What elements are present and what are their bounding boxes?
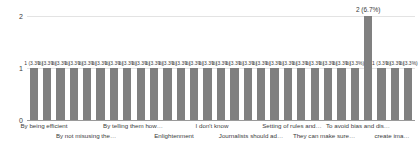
bar xyxy=(123,68,131,120)
bar xyxy=(324,68,332,120)
bar xyxy=(311,68,319,120)
bar-value-label: 1 (3.3%) xyxy=(399,61,418,66)
x-axis-tick-label: Journalists should ad… xyxy=(219,132,283,139)
bar xyxy=(43,68,51,120)
bar xyxy=(56,68,64,120)
bar-chart: 012 1 (3.3%)1 (3.3%)1 (3.3%)1 (3.3%)1 (3… xyxy=(0,0,418,152)
bar xyxy=(83,68,91,120)
x-axis-tick-labels: By being efficientBy not misusing the…By… xyxy=(0,121,418,152)
bar xyxy=(244,68,252,120)
bar xyxy=(337,68,345,120)
bar xyxy=(177,68,185,120)
bar xyxy=(391,68,399,120)
bar xyxy=(364,16,372,120)
bar xyxy=(404,68,412,120)
bar xyxy=(351,68,359,120)
bar-value-label: 1 (3.3%) xyxy=(345,61,364,66)
x-axis-tick-label: Setting of rules and… xyxy=(262,122,322,129)
bar xyxy=(217,68,225,120)
x-axis-tick-label: They can make sure… xyxy=(293,132,355,139)
bar xyxy=(30,68,38,120)
y-axis-tick-label: 2 xyxy=(3,13,23,20)
bar xyxy=(257,68,265,120)
x-axis-tick-label: create ima… xyxy=(374,132,409,139)
x-axis-tick-label: By telling them how… xyxy=(103,122,163,129)
x-axis-tick-label: Enlightenment xyxy=(154,132,194,139)
bar xyxy=(203,68,211,120)
bar xyxy=(190,68,198,120)
bar xyxy=(110,68,118,120)
bar xyxy=(70,68,78,120)
bar xyxy=(163,68,171,120)
x-axis-tick-label: I don't know xyxy=(196,122,229,129)
x-axis-tick-label: To avoid bias and dis… xyxy=(326,122,390,129)
bar xyxy=(284,68,292,120)
bar xyxy=(96,68,104,120)
bar xyxy=(150,68,158,120)
bar xyxy=(297,68,305,120)
bar xyxy=(270,68,278,120)
plot-area: 1 (3.3%)1 (3.3%)1 (3.3%)1 (3.3%)1 (3.3%)… xyxy=(27,16,415,120)
bar xyxy=(137,68,145,120)
gridline xyxy=(27,16,415,17)
y-axis-tick-label: 1 xyxy=(3,65,23,72)
x-axis-tick-label: By not misusing the… xyxy=(56,132,116,139)
bar xyxy=(377,68,385,120)
bar-value-label: 2 (6.7%) xyxy=(356,7,381,12)
bar xyxy=(230,68,238,120)
x-axis-tick-label: By being efficient xyxy=(20,122,67,129)
